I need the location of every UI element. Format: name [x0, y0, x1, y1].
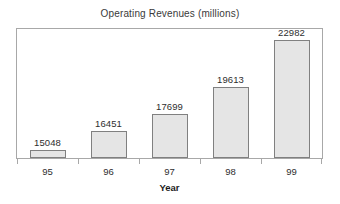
bar[interactable]: [91, 131, 127, 158]
chart-title: Operating Revenues (millions): [0, 8, 340, 19]
x-axis-category-labels: 9596979899: [16, 166, 323, 180]
bar-value-label: 19613: [217, 74, 244, 85]
bar-value-label: 22982: [278, 27, 305, 38]
axis-tick: [321, 159, 322, 164]
axis-tick: [200, 159, 201, 164]
bar-group: 22982: [261, 29, 322, 158]
bar-value-label: 16451: [95, 118, 122, 129]
x-axis-ticks: [16, 159, 323, 164]
bar[interactable]: [30, 150, 66, 158]
bar-group: 15048: [17, 29, 78, 158]
bar-value-label: 15048: [34, 137, 61, 148]
bar-group: 17699: [139, 29, 200, 158]
axis-tick: [139, 159, 140, 164]
x-axis-tick-label: 95: [42, 166, 53, 177]
bar[interactable]: [152, 114, 188, 158]
axis-tick: [78, 159, 79, 164]
axis-tick: [17, 159, 18, 164]
x-axis-tick-label: 96: [103, 166, 114, 177]
bar-group: 16451: [78, 29, 139, 158]
plot-area: 1504816451176991961322982: [17, 29, 322, 158]
x-axis-tick-label: 98: [225, 166, 236, 177]
bar-value-label: 17699: [156, 101, 183, 112]
x-axis-title: Year: [16, 182, 323, 193]
axis-tick: [261, 159, 262, 164]
x-axis-tick-label: 99: [286, 166, 297, 177]
bar[interactable]: [274, 40, 310, 158]
bar[interactable]: [213, 87, 249, 158]
x-axis-tick-label: 97: [164, 166, 175, 177]
bar-group: 19613: [200, 29, 261, 158]
bar-chart: Operating Revenues (millions) 1504816451…: [0, 0, 340, 204]
